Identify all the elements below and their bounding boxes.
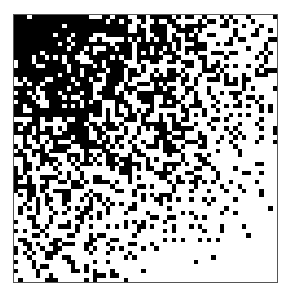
dither-gradient-frame — [13, 14, 278, 283]
dither-gradient-canvas — [14, 15, 277, 282]
